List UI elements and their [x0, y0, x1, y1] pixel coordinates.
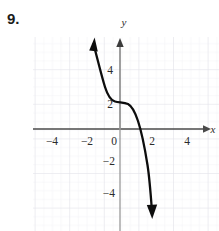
x-tick-label-4: 4 [184, 135, 190, 147]
graph-figure: x y −4 −2 0 2 4 4 2 −2 −4 [0, 0, 219, 231]
y-tick-label-minus2: −2 [103, 155, 115, 167]
x-tick-label-zero: 0 [111, 135, 117, 147]
y-tick-label-minus4: −4 [103, 187, 115, 199]
x-tick-label-2: 2 [149, 135, 155, 147]
x-tick-label-minus4: −4 [46, 135, 58, 147]
y-tick-label-4: 4 [107, 64, 113, 76]
figure-page: 9. x y −4 −2 [0, 0, 219, 231]
x-axis-label: x [210, 123, 216, 135]
grid [33, 37, 219, 231]
x-tick-label-minus2: −2 [81, 135, 93, 147]
y-axis-label: y [121, 16, 127, 28]
